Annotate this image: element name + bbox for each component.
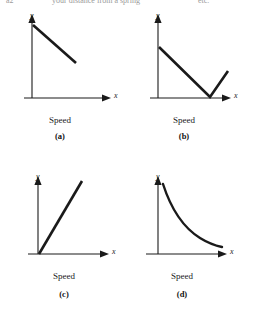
data-curve-b: [159, 47, 228, 97]
y-axis-label-c: y: [36, 173, 40, 181]
x-axis-arrowhead-a: [102, 94, 111, 101]
x-axis-label-b: x: [234, 92, 238, 100]
data-curve-a: [33, 25, 76, 63]
speed-caption-d: Speed: [136, 271, 228, 281]
x-axis-label-d: x: [230, 248, 234, 256]
data-curve-d: [163, 184, 222, 247]
panel-letter-c: (c): [18, 290, 110, 299]
plot-d: [132, 160, 244, 270]
x-axis-label-c: x: [112, 248, 116, 256]
graph-panel-a: y x Speed (a): [14, 12, 126, 142]
clipped-header-fragment: a2: [6, 0, 14, 5]
x-axis-arrowhead-c: [100, 250, 109, 257]
plot-c: [14, 160, 126, 270]
graph-panel-b: y x Speed (b): [132, 12, 244, 142]
panel-letter-b: (b): [138, 132, 230, 141]
data-curve-c: [39, 181, 82, 254]
speed-caption-a: Speed: [14, 115, 106, 125]
y-axis-label-a: y: [30, 12, 34, 20]
plot-b: [132, 12, 244, 112]
x-axis-arrowhead-b: [222, 94, 231, 101]
panel-letter-a: (a): [14, 132, 106, 141]
speed-caption-c: Speed: [18, 271, 110, 281]
y-axis-label-b: y: [156, 12, 160, 20]
x-axis-label-a: x: [114, 92, 118, 100]
panel-letter-d: (d): [136, 290, 228, 299]
clipped-header-fragment: etc.: [198, 0, 209, 5]
clipped-header-text: a2 your distance from a spring etc.: [0, 0, 255, 9]
plot-a: [14, 12, 126, 112]
graph-panel-d: y x Speed (d): [132, 160, 244, 312]
speed-caption-b: Speed: [138, 115, 230, 125]
figure-root: a2 your distance from a spring etc. y x …: [0, 0, 255, 322]
y-axis-label-d: y: [156, 173, 160, 181]
clipped-header-fragment: your distance from a spring: [52, 0, 140, 5]
graph-panel-c: y x Speed (c): [14, 160, 126, 312]
x-axis-arrowhead-d: [218, 250, 227, 257]
